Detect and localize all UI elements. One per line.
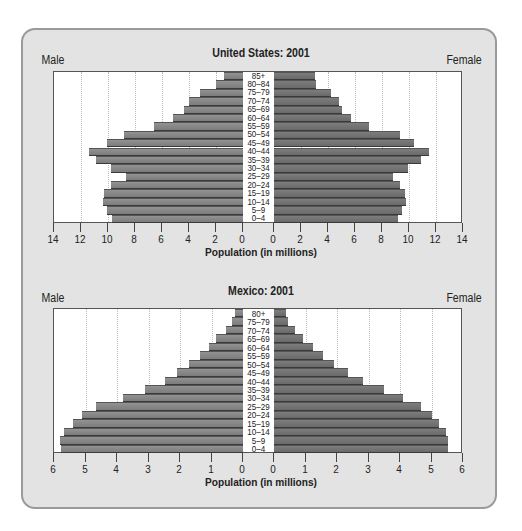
x-tick [305,453,306,462]
x-tick-label: 3 [139,463,157,475]
male-bar [61,445,243,453]
female-bar [274,436,448,444]
chart-title: Mexico: 2001 [31,284,490,298]
x-tick-label: 1 [202,463,220,475]
female-bar [274,445,448,453]
x-tick [179,453,180,462]
female-bar [274,309,286,317]
male-label: Male [42,291,65,305]
x-tick-label: 3 [359,463,377,475]
x-tick-label: 2 [170,463,188,475]
x-tick [211,453,212,462]
male-bar [189,360,243,368]
x-tick-label: 1 [296,463,314,475]
male-bar [82,411,243,419]
mexico-population-pyramid: Mexico: 2001 Male Female 80+75–7970–7465… [0,0,522,500]
female-bar [274,326,295,334]
x-tick [85,453,86,462]
male-bar [96,402,243,410]
male-bar [165,377,243,385]
female-bar [274,385,384,393]
x-tick [399,453,400,462]
x-tick [368,453,369,462]
male-bar [64,428,243,436]
male-bar [226,326,243,334]
female-bar [274,368,348,376]
x-tick-label: 5 [422,463,440,475]
female-bar [274,343,313,351]
male-bar [123,394,243,402]
male-bar [177,368,243,376]
x-tick-label: 2 [327,463,345,475]
male-bar [235,309,243,317]
x-tick-label: 5 [76,463,94,475]
male-bar [73,419,243,427]
x-axis-label: Population (in millions) [31,476,490,488]
male-bar [232,317,243,325]
x-tick [148,453,149,462]
male-bar [145,385,243,393]
female-bar [274,402,421,410]
x-tick [242,453,243,462]
female-label: Female [446,291,481,305]
female-bar [274,411,432,419]
female-bar [274,334,303,342]
x-tick [53,453,54,462]
x-tick [116,453,117,462]
male-bar [200,351,243,359]
x-tick-label: 6 [44,463,62,475]
male-bar [60,436,243,444]
x-tick [273,453,274,462]
female-bar [274,377,363,385]
x-tick [336,453,337,462]
x-tick-label: 0 [233,463,251,475]
female-bar [274,360,334,368]
female-bar [274,351,323,359]
x-tick [462,453,463,462]
x-tick [431,453,432,462]
x-tick-label: 4 [107,463,125,475]
x-tick-label: 4 [390,463,408,475]
female-bar [274,428,446,436]
x-axis: 65432100123456 [0,453,522,463]
male-bar [216,334,243,342]
female-bar [274,419,439,427]
female-bar [274,317,288,325]
female-bar [274,394,403,402]
x-tick-label: 6 [453,463,471,475]
x-tick-label: 0 [264,463,282,475]
male-bar [209,343,243,351]
plot-area: 80+75–7970–7465–6960–6455–5950–5445–4940… [53,308,462,453]
